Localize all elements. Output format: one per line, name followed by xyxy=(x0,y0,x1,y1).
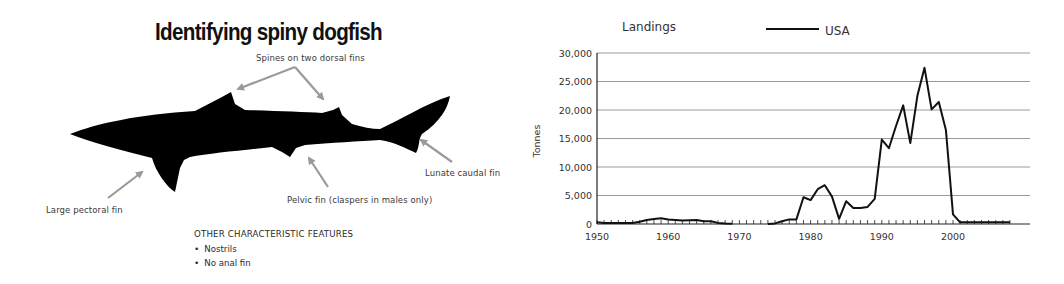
callout-dorsal-spines: Spines on two dorsal fins xyxy=(256,53,365,63)
x-tick-label: 2000 xyxy=(941,231,965,242)
features-heading: OTHER CHARACTERISTIC FEATURES xyxy=(194,229,353,239)
landings-chart: Landings USA Tonnes 05,00010,00015,00020… xyxy=(520,0,1064,284)
y-axis-ticks: 05,00010,00015,00020,00025,00030,000 xyxy=(559,48,592,230)
y-tick-label: 0 xyxy=(586,219,592,230)
x-axis-ticks: 195019601970198019902000 xyxy=(585,220,1010,242)
arrow-second-dorsal xyxy=(295,67,323,99)
y-axis-label: Tonnes xyxy=(531,125,542,159)
arrow-pectoral xyxy=(108,172,142,198)
callout-pelvic-fin: Pelvic fin (claspers in males only) xyxy=(287,195,432,205)
y-tick-label: 5,000 xyxy=(565,190,592,201)
feature-item: No anal fin xyxy=(194,256,251,270)
features-list: Nostrils No anal fin xyxy=(194,242,251,270)
series-usa xyxy=(597,68,1010,224)
y-tick-label: 20,000 xyxy=(559,105,592,116)
arrow-first-dorsal xyxy=(238,67,295,89)
y-tick-label: 10,000 xyxy=(559,162,592,173)
shark-silhouette-icon xyxy=(0,0,520,284)
x-tick-label: 1960 xyxy=(656,231,680,242)
chart-title: Landings xyxy=(622,20,676,34)
chart-grid xyxy=(597,53,1030,224)
y-tick-label: 15,000 xyxy=(559,133,592,144)
callout-pectoral-fin: Large pectoral fin xyxy=(46,205,123,215)
arrow-caudal xyxy=(421,140,452,162)
legend-label: USA xyxy=(825,24,851,38)
x-tick-label: 1970 xyxy=(727,231,751,242)
arrow-pelvic xyxy=(309,158,328,187)
x-tick-label: 1950 xyxy=(585,231,609,242)
x-tick-label: 1990 xyxy=(870,231,894,242)
y-tick-label: 30,000 xyxy=(559,48,592,59)
dogfish-identification-diagram: Identifying spiny dogfish Spines on two … xyxy=(0,0,520,284)
x-tick-label: 1980 xyxy=(799,231,823,242)
line-chart: Landings USA Tonnes 05,00010,00015,00020… xyxy=(520,0,1064,284)
y-tick-label: 25,000 xyxy=(559,76,592,87)
callout-caudal-fin: Lunate caudal fin xyxy=(425,168,500,178)
feature-item: Nostrils xyxy=(194,242,251,256)
